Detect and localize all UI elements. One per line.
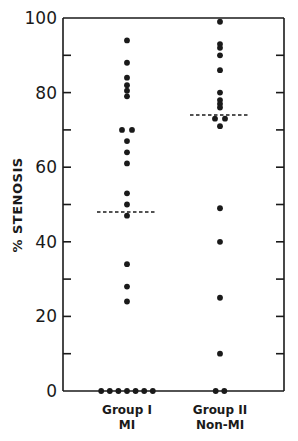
data-point (217, 105, 223, 111)
y-tick-label: 0 (46, 381, 57, 401)
data-point (124, 202, 130, 208)
y-tick-label: 40 (35, 232, 57, 252)
y-axis-label: % STENOSIS (10, 157, 25, 252)
data-point (124, 299, 130, 305)
data-point (124, 93, 130, 99)
data-point (107, 388, 113, 394)
data-point (124, 138, 130, 144)
data-point (124, 213, 130, 219)
data-point (129, 127, 135, 133)
data-point (217, 67, 223, 73)
data-point (116, 388, 122, 394)
data-point (217, 45, 223, 51)
category-label: Group I (102, 403, 152, 417)
data-point (222, 116, 228, 122)
plot-frame (63, 18, 284, 391)
y-tick-label: 20 (35, 306, 57, 326)
data-point (124, 284, 130, 290)
data-point (217, 295, 223, 301)
data-point (124, 37, 130, 43)
data-point (124, 60, 130, 66)
category-label: Group II (193, 403, 247, 417)
y-tick-label: 80 (35, 83, 57, 103)
data-point (124, 261, 130, 267)
data-point (141, 388, 147, 394)
data-point (124, 75, 130, 81)
data-point (217, 52, 223, 58)
data-point (221, 388, 227, 394)
data-point (217, 123, 223, 129)
data-point (213, 388, 219, 394)
data-point (133, 388, 139, 394)
category-sublabel: Non-MI (196, 418, 244, 432)
data-point (124, 149, 130, 155)
data-point (217, 205, 223, 211)
data-point (124, 190, 130, 196)
data-points (98, 19, 228, 394)
data-point (217, 19, 223, 25)
data-point (124, 161, 130, 167)
data-point (98, 388, 104, 394)
y-tick-label: 60 (35, 157, 57, 177)
y-tick-label: 100 (25, 8, 57, 28)
data-point (124, 82, 130, 88)
data-point (119, 127, 125, 133)
data-point (124, 88, 130, 94)
data-point (150, 388, 156, 394)
data-point (212, 116, 218, 122)
data-point (217, 90, 223, 96)
category-labels: Group IMIGroup IINon-MI (102, 403, 247, 432)
data-point (217, 351, 223, 357)
data-point (217, 239, 223, 245)
data-point (124, 388, 130, 394)
stenosis-scatter-chart: 020406080100 % STENOSIS Group IMIGroup I… (0, 0, 298, 441)
category-sublabel: MI (119, 418, 135, 432)
